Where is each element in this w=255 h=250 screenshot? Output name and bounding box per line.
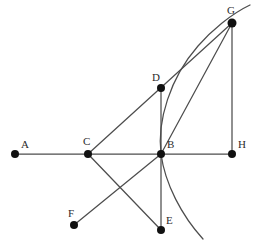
curve-group bbox=[160, 5, 250, 239]
vertex-dot-C bbox=[84, 150, 92, 158]
segments-group bbox=[15, 23, 232, 230]
vertex-label-A: A bbox=[21, 138, 29, 150]
vertex-label-B: B bbox=[167, 138, 174, 150]
vertex-dot-G bbox=[228, 19, 237, 28]
figure-canvas: A B C D E F G H bbox=[0, 0, 255, 250]
segment-C-E bbox=[88, 154, 161, 230]
labels-group: A B C D E F G H bbox=[21, 4, 246, 226]
vertex-dot-B bbox=[157, 150, 165, 158]
parabola-curve bbox=[160, 5, 250, 239]
vertex-dot-F bbox=[70, 221, 78, 229]
vertices-group bbox=[11, 19, 237, 235]
vertex-label-C: C bbox=[83, 135, 90, 147]
segment-B-F bbox=[74, 154, 161, 225]
vertex-label-E: E bbox=[166, 214, 173, 226]
geometry-figure: A B C D E F G H bbox=[0, 0, 255, 250]
vertex-dot-E bbox=[157, 226, 165, 234]
vertex-label-G: G bbox=[227, 4, 235, 16]
vertex-dot-D bbox=[157, 84, 165, 92]
vertex-dot-H bbox=[228, 150, 236, 158]
vertex-dot-A bbox=[11, 150, 19, 158]
vertex-label-H: H bbox=[238, 138, 246, 150]
vertex-label-F: F bbox=[68, 207, 74, 219]
vertex-label-D: D bbox=[152, 71, 160, 83]
